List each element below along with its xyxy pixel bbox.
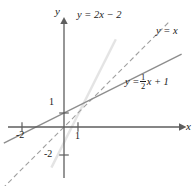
x-axis-label: x xyxy=(186,121,191,132)
equation-label-steep-line: y = 2x − 2 xyxy=(77,10,122,21)
y-axis-arrow-icon xyxy=(60,17,67,24)
equation-half-prefix: y = xyxy=(125,76,139,87)
y-tick-label-1: 1 xyxy=(49,97,54,107)
y-tick-label-neg2: -2 xyxy=(44,149,52,159)
fraction-denominator: 2 xyxy=(140,81,146,91)
x-tick-label-neg2: -2 xyxy=(16,130,24,140)
equation-label-half-line: y =12x + 1 xyxy=(125,73,169,91)
line-y-equals-x xyxy=(2,21,170,186)
y-axis-label: y xyxy=(55,6,60,17)
graph-figure: y x -2 1 1 -2 y = 2x − 2 y = x y =12x + … xyxy=(0,0,194,186)
fraction-one-half: 12 xyxy=(140,73,146,91)
fraction-numerator: 1 xyxy=(140,73,146,82)
equation-half-suffix: x + 1 xyxy=(147,76,169,87)
x-tick-label-1: 1 xyxy=(75,131,80,141)
equation-label-identity-line: y = x xyxy=(156,26,178,37)
line-y-equals-half-x-plus-1 xyxy=(4,54,182,143)
